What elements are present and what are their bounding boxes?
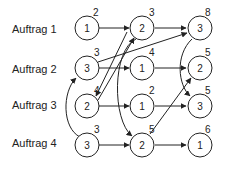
svg-text:3: 3 (84, 63, 90, 74)
node-r4c1: 3 3 (75, 124, 100, 157)
node-r4c3: 1 6 (188, 124, 212, 157)
svg-text:2: 2 (139, 23, 145, 34)
svg-text:6: 6 (205, 124, 211, 135)
svg-text:5: 5 (205, 47, 211, 58)
svg-text:5: 5 (205, 85, 211, 96)
svg-text:2: 2 (197, 63, 203, 74)
node-r3c1: 2 4 (75, 85, 100, 118)
node-r3c2: 1 2 (130, 85, 155, 118)
node-r3c3: 3 5 (188, 85, 212, 118)
svg-text:3: 3 (94, 47, 100, 58)
svg-text:1: 1 (139, 63, 145, 74)
node-r2c2: 1 4 (130, 47, 155, 80)
svg-text:2: 2 (93, 7, 99, 18)
svg-text:8: 8 (205, 7, 211, 18)
svg-text:2: 2 (139, 140, 145, 151)
svg-text:5: 5 (149, 124, 155, 135)
node-r1c2: 2 3 (130, 7, 155, 40)
svg-text:2: 2 (149, 85, 155, 96)
node-r1c1: 1 2 (75, 7, 99, 40)
node-r1c3: 3 8 (188, 7, 212, 40)
edge-r3c1-r1c2 (98, 38, 134, 100)
precedence-graph: 1 2 2 3 3 8 3 3 1 4 2 5 2 4 1 2 3 5 (0, 0, 226, 169)
svg-text:3: 3 (84, 140, 90, 151)
svg-text:3: 3 (149, 7, 155, 18)
svg-text:4: 4 (94, 85, 100, 96)
node-r4c2: 2 5 (130, 124, 155, 157)
svg-text:1: 1 (84, 23, 90, 34)
svg-text:3: 3 (197, 101, 203, 112)
svg-text:3: 3 (94, 124, 100, 135)
svg-text:4: 4 (149, 47, 155, 58)
svg-text:1: 1 (139, 101, 145, 112)
edge-r2c1-r3c1-diag (96, 32, 127, 96)
node-r2c1: 3 3 (75, 47, 100, 80)
svg-text:2: 2 (84, 101, 90, 112)
node-r2c3: 2 5 (188, 47, 212, 80)
svg-text:1: 1 (197, 140, 203, 151)
svg-text:3: 3 (197, 23, 203, 34)
edge-r1c2-r4c2 (117, 39, 136, 136)
